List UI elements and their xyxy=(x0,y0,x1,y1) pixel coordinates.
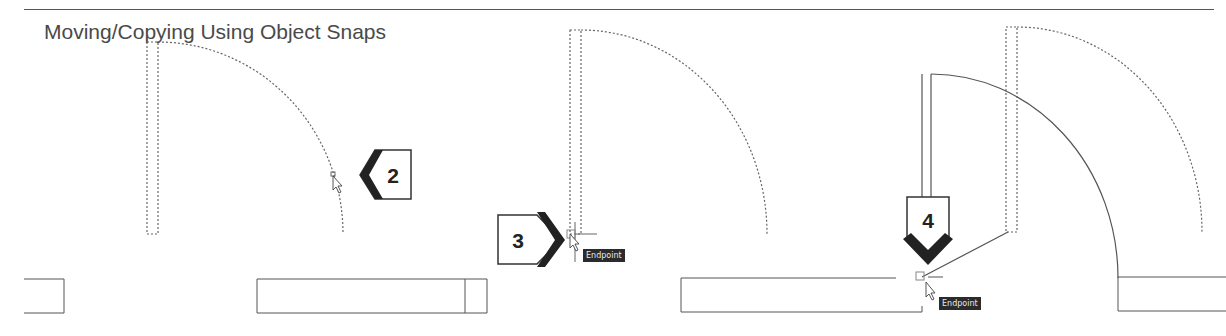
pick-cursor-icon xyxy=(331,172,342,193)
door-swing-arc-dashed xyxy=(158,42,343,234)
door-swing-arc-dashed xyxy=(581,30,767,234)
snap-tooltip-endpoint: Endpoint xyxy=(583,249,625,262)
door-swing-arc-dashed xyxy=(1017,27,1202,232)
wall-segment-right xyxy=(1118,277,1226,311)
callout-number-2: 2 xyxy=(387,164,399,187)
callout-step-3: 3 xyxy=(498,212,565,267)
door-leaf-dashed xyxy=(1006,27,1017,232)
door-panel-1 xyxy=(147,42,343,234)
wall-segment-right xyxy=(257,279,487,313)
callout-step-4: 4 xyxy=(903,197,953,265)
wall-segment-left xyxy=(681,278,922,312)
callout-number-4: 4 xyxy=(922,209,934,232)
endpoint-snap-marker-icon xyxy=(916,272,935,300)
endpoint-snap-marker-icon xyxy=(567,230,579,251)
snap-tooltip-endpoint: Endpoint xyxy=(939,297,981,310)
callout-step-2: 2 xyxy=(360,150,411,199)
door-leaf-dashed xyxy=(570,30,581,234)
door-panel-2 xyxy=(570,30,767,234)
wall-panel-1 xyxy=(24,279,487,313)
door-panel-3-solid xyxy=(922,74,1118,278)
door-swing-arc-solid xyxy=(931,74,1118,278)
door-leaf-dashed xyxy=(147,42,158,234)
wall-segment-left xyxy=(24,279,64,313)
callout-number-3: 3 xyxy=(512,229,524,252)
